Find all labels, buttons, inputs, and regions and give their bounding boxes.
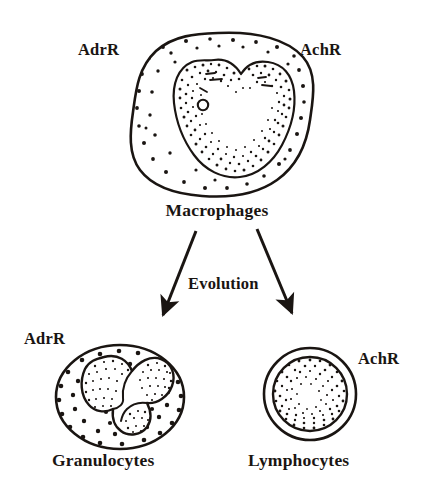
evolution-arrows [163,229,292,315]
macrophage-cell [131,33,314,197]
label-evolution: Evolution [188,276,259,293]
label-adrr-macrophage: AdrR [78,42,119,59]
label-achr-macrophage: AchR [300,42,341,59]
arrow-to-granulocytes [163,231,196,315]
lymphocyte-nucleus [273,357,347,431]
label-granulocytes: Granulocytes [52,452,155,470]
cell-lineage-illustration [0,0,434,481]
label-macrophages: Macrophages [166,202,269,220]
arrow-to-lymphocytes [257,229,292,313]
label-adrr-granulocyte: AdrR [24,331,65,348]
granulocyte-cell [56,345,184,449]
label-lymphocytes: Lymphocytes [248,452,349,470]
lymphocyte-cell [264,348,356,440]
macrophage-nucleolus [198,100,208,110]
diagram-canvas: AdrR AchR Macrophages Evolution AdrR Ach… [0,0,434,481]
label-achr-lymphocyte: AchR [358,351,399,368]
